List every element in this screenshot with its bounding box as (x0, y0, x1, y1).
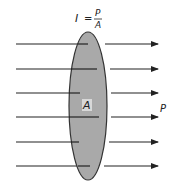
formula-denominator: A (94, 20, 101, 30)
formula-equals: = (84, 13, 92, 24)
intensity-formula: I = P A (75, 8, 102, 30)
formula-numerator: P (95, 8, 101, 18)
power-label: P (160, 103, 167, 114)
outgoing-arrows (104, 44, 158, 166)
area-label: A (82, 99, 91, 112)
formula-lhs: I (75, 12, 78, 25)
intensity-diagram: I = P A A P (0, 0, 181, 188)
